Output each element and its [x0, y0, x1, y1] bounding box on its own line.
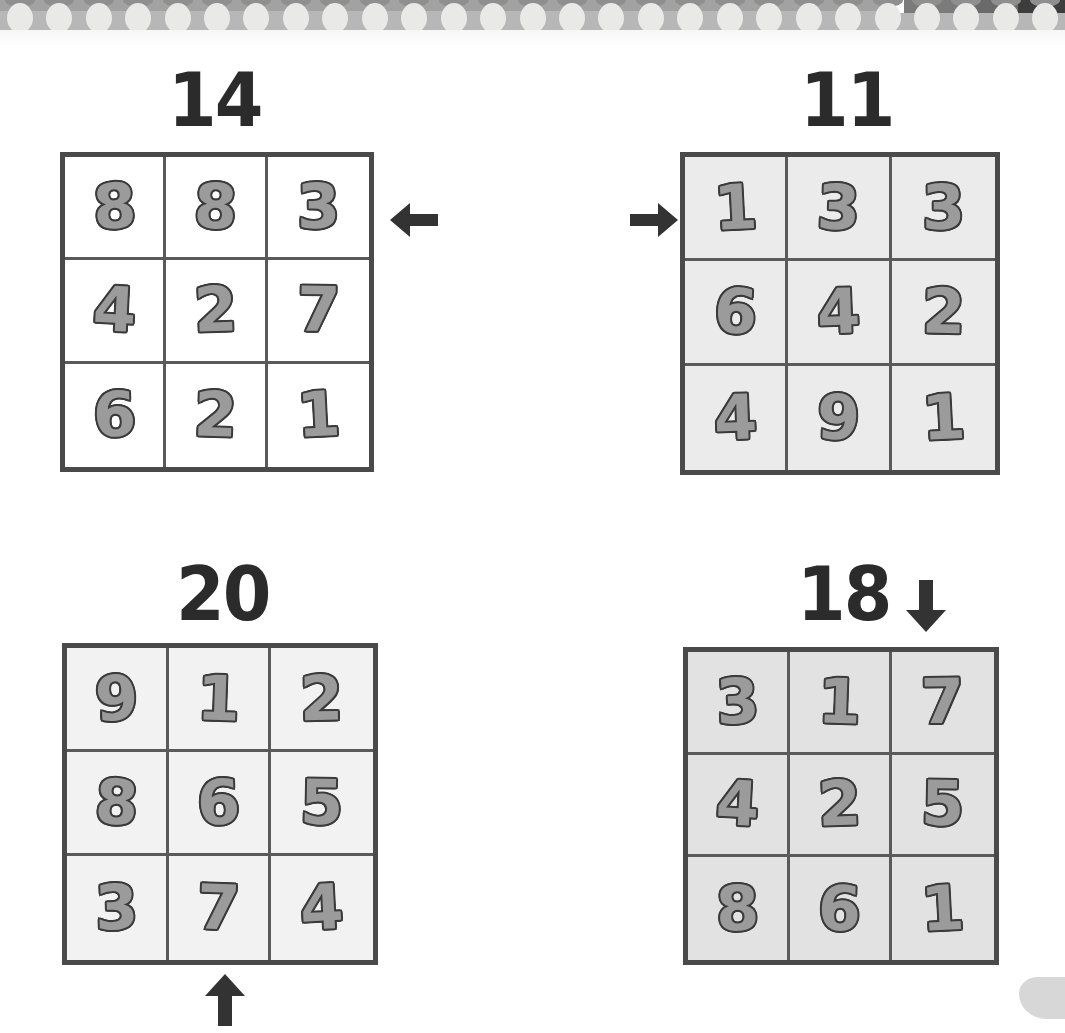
grid-cell[interactable]: 1 [892, 857, 994, 960]
page-title: 18 [797, 556, 890, 632]
puzzle-block-bottom-right: 18 3 1 7 4 2 5 8 6 1 [0, 0, 1065, 1033]
arrow-down-icon [900, 578, 952, 634]
cell-digit: 1 [817, 670, 862, 733]
cell-digit: 4 [714, 772, 760, 836]
grid-cell[interactable]: 5 [892, 755, 994, 858]
grid-cell[interactable]: 3 [688, 652, 790, 755]
grid-cell[interactable]: 7 [892, 652, 994, 755]
cell-digit: 7 [921, 670, 965, 733]
cell-digit: 2 [817, 773, 862, 836]
grid-cell[interactable]: 1 [790, 652, 892, 755]
grid-bottom-right[interactable]: 3 1 7 4 2 5 8 6 1 [683, 647, 999, 965]
grid-cell[interactable]: 8 [688, 857, 790, 960]
grid-cell[interactable]: 6 [790, 857, 892, 960]
cell-digit: 5 [921, 773, 965, 836]
cell-digit: 8 [715, 877, 760, 940]
cell-digit: 6 [817, 877, 862, 940]
grid-cell[interactable]: 2 [790, 755, 892, 858]
cell-digit: 3 [714, 670, 760, 734]
grid-cell[interactable]: 4 [688, 755, 790, 858]
cell-digit: 1 [920, 877, 966, 941]
